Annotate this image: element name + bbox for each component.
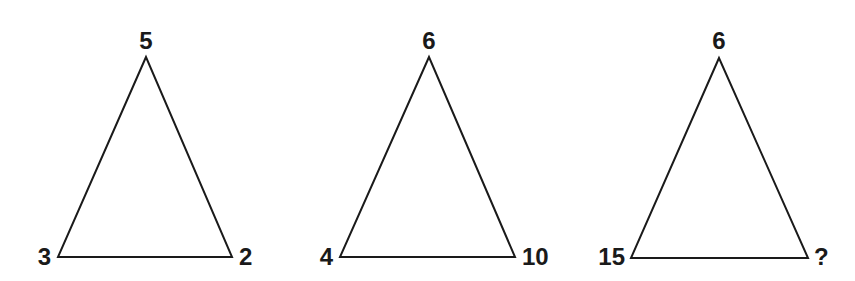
number-triangles-puzzle: 5 3 2 6 4 10 6 15 ? xyxy=(0,0,855,281)
triangle-3-left-number: 15 xyxy=(598,243,625,270)
triangle-2-top-number: 6 xyxy=(422,27,435,54)
triangle-1: 5 3 2 xyxy=(38,27,253,270)
triangle-1-right-number: 2 xyxy=(239,243,252,270)
triangle-3-top-number: 6 xyxy=(712,27,725,54)
triangle-3-missing-number: ? xyxy=(814,243,829,270)
triangle-2: 6 4 10 xyxy=(320,27,549,270)
triangle-1-left-number: 3 xyxy=(38,243,51,270)
triangle-2-right-number: 10 xyxy=(522,243,549,270)
triangle-1-shape xyxy=(58,57,232,257)
triangle-3-shape xyxy=(631,58,808,258)
triangle-3: 6 15 ? xyxy=(598,27,828,270)
triangle-1-top-number: 5 xyxy=(139,27,152,54)
triangle-2-left-number: 4 xyxy=(320,243,334,270)
triangle-2-shape xyxy=(340,57,515,257)
